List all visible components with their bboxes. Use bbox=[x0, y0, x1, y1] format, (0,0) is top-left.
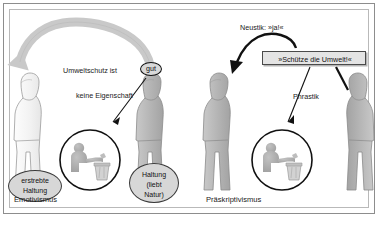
utterance-box: »Schütze die Umwelt!« bbox=[262, 51, 366, 65]
diagram-frame-inner bbox=[9, 9, 369, 208]
callout-line-2: Haltung bbox=[9, 187, 61, 195]
gut-label: gut bbox=[140, 64, 162, 73]
callout-line-1: erstrebte bbox=[9, 177, 61, 185]
label-umweltschutz-ist: Umweltschutz ist bbox=[63, 67, 117, 75]
diagram-canvas: Umweltschutz ist gut keine Eigenschaft e… bbox=[0, 0, 381, 232]
caption-praeskriptivismus: Präskriptivismus bbox=[206, 196, 261, 204]
callout-line-3: Natur) bbox=[130, 191, 178, 199]
label-phrastik: Phrastik bbox=[293, 93, 319, 101]
callout-haltung-liebt-natur: Haltung (liebt Natur) bbox=[129, 163, 179, 203]
caption-emotivismus: Emotivismus bbox=[14, 196, 57, 204]
label-keine-eigenschaft: keine Eigenschaft bbox=[76, 92, 133, 100]
callout-line-1: Haltung bbox=[130, 171, 178, 179]
label-neustik: Neustik: »ja!« bbox=[240, 24, 284, 32]
utterance-text: »Schütze die Umwelt!« bbox=[263, 55, 367, 64]
callout-line-2: (liebt bbox=[130, 181, 178, 189]
gut-token: gut bbox=[140, 62, 162, 76]
